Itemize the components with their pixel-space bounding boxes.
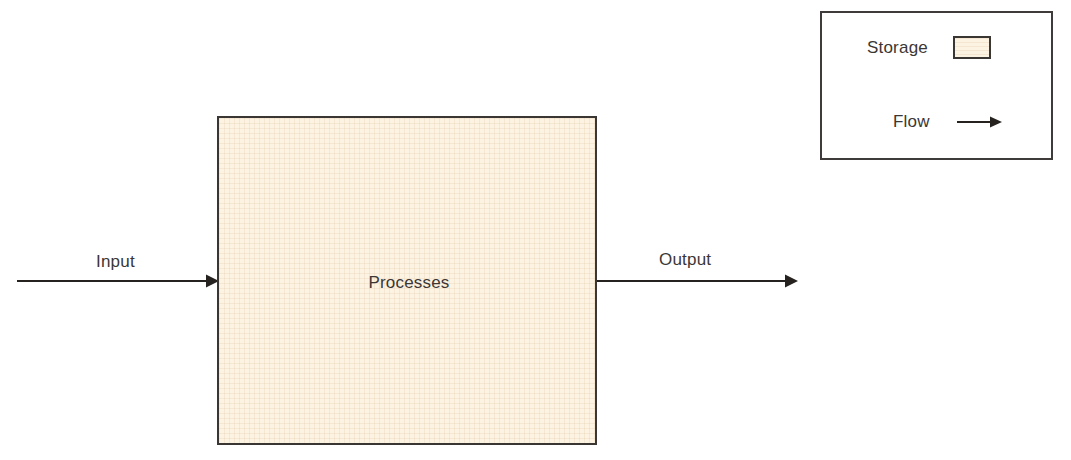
- processes-label: Processes: [219, 118, 599, 447]
- legend-item-flow: Flow: [893, 112, 1004, 132]
- output-label: Output: [659, 250, 711, 270]
- legend-item-flow-label: Flow: [893, 112, 930, 132]
- legend-box: Storage Flow: [820, 11, 1053, 160]
- flow-arrow-icon: [956, 113, 1004, 131]
- storage-swatch-icon: [953, 36, 991, 59]
- output-flow-arrow-icon: [593, 268, 801, 294]
- legend-item-storage: Storage: [867, 36, 991, 59]
- processes-box: Processes: [217, 116, 597, 445]
- input-label: Input: [96, 252, 135, 272]
- diagram-canvas: Input Processes Output Storage Flow: [0, 0, 1071, 460]
- legend-item-storage-label: Storage: [867, 38, 928, 58]
